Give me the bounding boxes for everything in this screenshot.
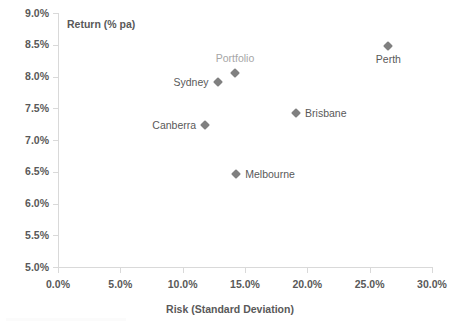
data-point-label: Sydney	[174, 76, 209, 88]
y-axis-tick	[53, 172, 58, 173]
y-axis-tick	[53, 45, 58, 46]
data-point-marker[interactable]	[231, 169, 241, 179]
y-axis-line	[58, 13, 59, 268]
data-point-label: Perth	[376, 53, 401, 65]
x-axis-tick	[307, 268, 308, 273]
x-axis-tick-label: 25.0%	[340, 279, 400, 290]
x-axis-tick-label: 0.0%	[28, 279, 88, 290]
y-axis-tick-label: 5.0%	[9, 262, 49, 273]
y-axis-tick-label: 7.5%	[9, 103, 49, 114]
scatter-chart: 5.0%5.5%6.0%6.5%7.0%7.5%8.0%8.5%9.0% 0.0…	[0, 0, 460, 326]
y-axis-tick-label: 8.0%	[9, 71, 49, 82]
data-point-label: Melbourne	[245, 168, 295, 180]
y-axis-tick-label: 6.0%	[9, 198, 49, 209]
data-point-label: Brisbane	[305, 107, 346, 119]
y-axis-tick-label: 5.5%	[9, 230, 49, 241]
x-axis-tick-label: 10.0%	[153, 279, 213, 290]
data-point-marker[interactable]	[213, 77, 223, 87]
x-axis-title: Risk (Standard Deviation)	[0, 303, 460, 315]
x-axis-tick	[120, 268, 121, 273]
data-point-label: Portfolio	[216, 52, 255, 64]
data-point-marker[interactable]	[230, 68, 240, 78]
y-axis-tick	[53, 108, 58, 109]
x-axis-tick-label: 30.0%	[402, 279, 460, 290]
y-axis-tick-label: 8.5%	[9, 39, 49, 50]
y-axis-tick	[53, 77, 58, 78]
y-axis-title: Return (% pa)	[67, 18, 135, 30]
x-axis-tick-label: 5.0%	[90, 279, 150, 290]
page-artifact	[6, 318, 126, 321]
y-axis-tick	[53, 13, 58, 14]
y-axis-tick-label: 9.0%	[9, 8, 49, 19]
y-axis-tick	[53, 235, 58, 236]
data-point-marker[interactable]	[291, 108, 301, 118]
data-point-label: Canberra	[152, 119, 196, 131]
x-axis-tick	[432, 268, 433, 273]
x-axis-tick	[183, 268, 184, 273]
y-axis-tick-label: 7.0%	[9, 135, 49, 146]
x-axis-tick-label: 15.0%	[215, 279, 275, 290]
x-axis-tick	[58, 268, 59, 273]
data-point-marker[interactable]	[200, 120, 210, 130]
y-axis-tick-label: 6.5%	[9, 166, 49, 177]
data-point-marker[interactable]	[383, 41, 393, 51]
x-axis-tick	[370, 268, 371, 273]
y-axis-tick	[53, 204, 58, 205]
x-axis-tick-label: 20.0%	[277, 279, 337, 290]
y-axis-tick	[53, 140, 58, 141]
x-axis-tick	[245, 268, 246, 273]
